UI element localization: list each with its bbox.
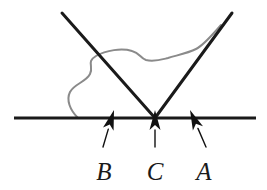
figure-canvas: BCA	[0, 0, 267, 190]
ray-diagram-svg: BCA	[0, 0, 267, 190]
marker-a-label: A	[194, 158, 212, 185]
marker-b-label: B	[96, 158, 111, 185]
marker-c-label: C	[147, 158, 164, 185]
